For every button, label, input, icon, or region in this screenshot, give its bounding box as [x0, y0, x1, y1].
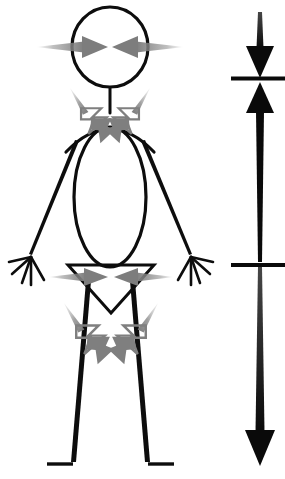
- figure-canvas: Postural compression force diagram Stick…: [0, 0, 285, 479]
- posture-force-diagram: Postural compression force diagram Stick…: [0, 0, 285, 479]
- upper-tick-line: [231, 77, 285, 81]
